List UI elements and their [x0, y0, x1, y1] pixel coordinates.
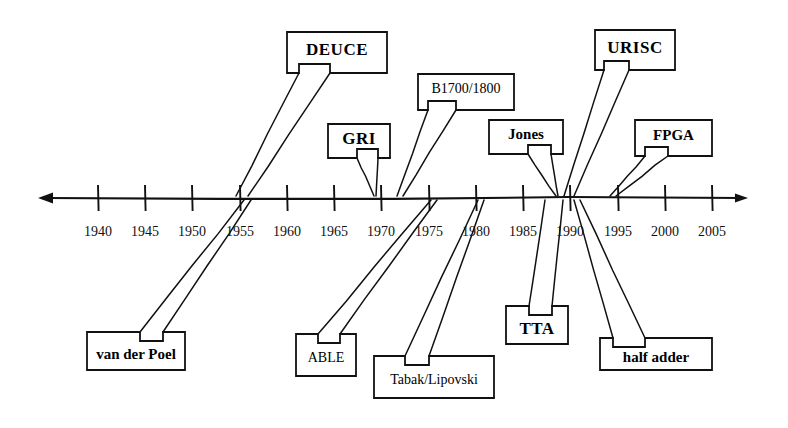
leader-line-able	[318, 200, 431, 334]
callout-box-deuce[interactable]	[287, 32, 387, 73]
year-label-1985: 1985	[509, 224, 537, 240]
tick-mark	[98, 185, 99, 211]
tick-mark	[618, 185, 619, 211]
year-label-1955: 1955	[226, 224, 254, 240]
callout-box-half-adder[interactable]	[600, 338, 712, 370]
callout-box-tabak-lipovski[interactable]	[374, 356, 494, 398]
tick-mark	[381, 185, 382, 211]
tick-mark	[145, 185, 146, 211]
axis-arrow-left-icon	[38, 193, 53, 204]
leader-line-van-der-poel	[140, 200, 244, 332]
leader-line-b1700-1800	[397, 110, 428, 196]
leader-line-half-adder	[580, 200, 645, 338]
callout-leader-lines	[140, 70, 668, 356]
year-label-1980: 1980	[462, 224, 490, 240]
leader-line-fpga	[610, 156, 645, 196]
callout-box-b1700-1800[interactable]	[418, 74, 514, 110]
callout-box-able[interactable]	[296, 334, 356, 376]
tick-mark	[570, 185, 571, 211]
leader-line-gri	[357, 158, 374, 196]
callout-box-urisc[interactable]	[595, 30, 675, 70]
leader-line-urisc	[574, 70, 629, 196]
tick-mark	[429, 185, 430, 211]
axis-arrow-right-icon	[735, 194, 748, 203]
timeline-diagram: 1940194519501955196019651970197519801985…	[0, 0, 788, 428]
year-label-1940: 1940	[84, 224, 112, 240]
leader-line-able	[340, 200, 437, 334]
tick-mark	[665, 185, 666, 211]
leader-line-tta	[552, 200, 563, 306]
tick-mark	[476, 185, 477, 211]
callout-box-tta[interactable]	[506, 306, 568, 344]
leader-line-tta	[529, 200, 545, 306]
year-label-1945: 1945	[131, 224, 159, 240]
year-label-1990: 1990	[556, 224, 584, 240]
leader-line-urisc	[564, 70, 604, 196]
tick-mark	[287, 185, 288, 211]
tick-mark	[712, 185, 713, 211]
axis-line	[46, 197, 742, 199]
callout-box-gri[interactable]	[328, 124, 390, 158]
year-label-1995: 1995	[604, 224, 632, 240]
leader-line-van-der-poel	[163, 200, 251, 332]
leader-line-fpga	[616, 156, 668, 196]
callout-box-van-der-poel[interactable]	[87, 332, 185, 370]
leader-line-half-adder	[574, 200, 613, 338]
year-label-1960: 1960	[273, 224, 301, 240]
callout-boxes	[87, 30, 712, 398]
callout-box-jones[interactable]	[489, 120, 563, 154]
year-label-2005: 2005	[698, 224, 726, 240]
year-label-1970: 1970	[367, 224, 395, 240]
year-label-1965: 1965	[320, 224, 348, 240]
year-label-1950: 1950	[178, 224, 206, 240]
year-label-2000: 2000	[651, 224, 679, 240]
leader-line-gri	[376, 158, 378, 196]
tick-mark	[192, 185, 193, 211]
tick-mark	[334, 185, 335, 211]
leader-line-b1700-1800	[403, 110, 456, 196]
tick-mark	[523, 185, 524, 211]
callout-box-fpga[interactable]	[635, 120, 712, 156]
diagram-canvas	[0, 0, 788, 428]
year-label-1975: 1975	[415, 224, 443, 240]
